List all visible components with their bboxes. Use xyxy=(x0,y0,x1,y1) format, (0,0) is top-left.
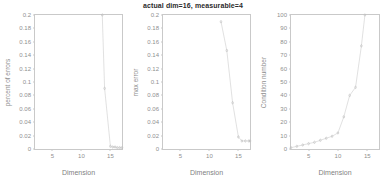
subplot-2-ytick-mark xyxy=(289,135,291,136)
subplot-1-xtick-mark xyxy=(180,149,181,151)
subplot-1-ytick-label: 0.06 xyxy=(147,106,159,112)
subplot-2-xtick-mark xyxy=(367,149,368,151)
subplot-2-xtick-label: 15 xyxy=(364,153,371,159)
subplot-2-xtick-mark xyxy=(308,149,309,151)
subplot-0-ytick-label: 0.16 xyxy=(19,39,31,45)
subplot-0-xtick-label: 15 xyxy=(107,153,114,159)
subplot-1-xtick-label: 5 xyxy=(179,153,182,159)
subplot-2-line xyxy=(291,15,365,148)
subplot-0-xtick-label: 5 xyxy=(51,153,54,159)
subplot-0-ytick-mark xyxy=(33,68,35,69)
subplot-1-title: actual dim=16, measurable=4 xyxy=(128,2,258,9)
subplot-0-xtick-mark xyxy=(81,149,82,151)
subplot-0-ytick-mark xyxy=(33,82,35,83)
subplot-1-ytick-mark xyxy=(161,108,163,109)
subplot-0-ylabel: percent of errors xyxy=(2,14,13,150)
subplot-1-xtick-mark xyxy=(238,149,239,151)
subplot-2-series-svg xyxy=(291,15,379,149)
subplot-1-ytick-label: 0.04 xyxy=(147,119,159,125)
subplot-2-ytick-mark xyxy=(289,82,291,83)
subplot-2-xtick-mark xyxy=(337,149,338,151)
subplot-0-series-svg xyxy=(35,15,122,149)
subplot-1-series-layer xyxy=(163,15,250,149)
matlab-figure: percent of errors 00.020.040.060.080.10.… xyxy=(0,0,387,190)
subplot-1-xtick-label: 15 xyxy=(235,153,242,159)
subplot-0-ytick-mark xyxy=(33,122,35,123)
subplot-1-line xyxy=(221,22,250,141)
subplot-1-ytick-label: 0.08 xyxy=(147,92,159,98)
subplot-2-ytick-mark xyxy=(289,55,291,56)
subplot-0-ytick-mark xyxy=(33,95,35,96)
subplot-0-ytick-mark xyxy=(33,108,35,109)
subplot-1-ytick-mark xyxy=(161,95,163,96)
subplot-1-ytick-mark xyxy=(161,28,163,29)
subplot-2-ytick-mark xyxy=(289,122,291,123)
subplot-1-ytick-label: 0.1 xyxy=(151,79,159,85)
subplot-2-ytick-label: 30 xyxy=(280,106,287,112)
subplot-2-ytick-label: 10 xyxy=(280,133,287,139)
subplot-0-xtick-mark xyxy=(52,149,53,151)
subplot-1-ytick-label: 0.16 xyxy=(147,39,159,45)
subplot-1-ytick-label: 0.12 xyxy=(147,66,159,72)
subplot-1-xtick-label: 10 xyxy=(206,153,213,159)
subplot-2-xtick-label: 10 xyxy=(335,153,342,159)
subplot-1-ylabel: max error xyxy=(130,14,141,150)
subplot-2-plot-area: 010203040506070809010051015 xyxy=(290,14,380,150)
subplot-2-ytick-mark xyxy=(289,28,291,29)
subplot-0-ytick-label: 0.2 xyxy=(23,12,31,18)
subplot-2-xlabel: Dimension xyxy=(290,169,380,176)
subplot-1-ytick-mark xyxy=(161,149,163,150)
subplot-0-ytick-label: 0.18 xyxy=(19,25,31,31)
subplot-condition-number: Condition number 01020304050607080901005… xyxy=(256,0,387,190)
subplot-1-ytick-mark xyxy=(161,68,163,69)
subplot-1-ytick-label: 0.14 xyxy=(147,52,159,58)
subplot-0-ytick-mark xyxy=(33,149,35,150)
subplot-2-ytick-label: 100 xyxy=(277,12,287,18)
subplot-1-plot-area: 00.020.040.060.080.10.120.140.160.180.25… xyxy=(162,14,251,150)
subplot-max-error: actual dim=16, measurable=4 max error 00… xyxy=(128,0,258,190)
subplot-0-xlabel: Dimension xyxy=(34,169,123,176)
subplot-0-xtick-label: 10 xyxy=(78,153,85,159)
subplot-0-line xyxy=(102,15,122,148)
subplot-2-ytick-label: 60 xyxy=(280,66,287,72)
subplot-0-ytick-mark xyxy=(33,28,35,29)
subplot-0-ytick-label: 0.06 xyxy=(19,106,31,112)
subplot-2-ytick-label: 50 xyxy=(280,79,287,85)
subplot-2-ytick-label: 80 xyxy=(280,39,287,45)
subplot-2-ytick-mark xyxy=(289,108,291,109)
subplot-1-ytick-mark xyxy=(161,122,163,123)
subplot-2-series-layer xyxy=(291,15,379,149)
subplot-0-xtick-mark xyxy=(110,149,111,151)
subplot-1-xtick-mark xyxy=(209,149,210,151)
subplot-0-ytick-label: 0.14 xyxy=(19,52,31,58)
subplot-1-series-svg xyxy=(163,15,250,149)
subplot-2-xtick-label: 5 xyxy=(307,153,310,159)
subplot-1-ytick-mark xyxy=(161,55,163,56)
subplot-0-ytick-mark xyxy=(33,15,35,16)
subplot-2-ytick-mark xyxy=(289,149,291,150)
subplot-1-ytick-mark xyxy=(161,82,163,83)
subplot-2-ytick-label: 0 xyxy=(284,146,287,152)
subplot-percent-of-errors: percent of errors 00.020.040.060.080.10.… xyxy=(0,0,130,190)
subplot-1-ytick-mark xyxy=(161,15,163,16)
subplot-0-plot-area: 00.020.040.060.080.10.120.140.160.180.25… xyxy=(34,14,123,150)
subplot-1-ytick-mark xyxy=(161,41,163,42)
subplot-0-ytick-mark xyxy=(33,41,35,42)
subplot-2-ytick-label: 90 xyxy=(280,25,287,31)
subplot-0-ytick-mark xyxy=(33,55,35,56)
subplot-2-ylabel: Condition number xyxy=(258,14,269,150)
subplot-0-ytick-label: 0 xyxy=(28,146,31,152)
subplot-2-ytick-mark xyxy=(289,68,291,69)
subplot-1-ytick-label: 0.2 xyxy=(151,12,159,18)
subplot-1-ytick-label: 0 xyxy=(156,146,159,152)
subplot-0-ytick-label: 0.02 xyxy=(19,133,31,139)
subplot-0-ytick-label: 0.08 xyxy=(19,92,31,98)
subplot-2-ytick-mark xyxy=(289,41,291,42)
subplot-1-ytick-label: 0.18 xyxy=(147,25,159,31)
subplot-0-ytick-label: 0.1 xyxy=(23,79,31,85)
subplot-1-ytick-label: 0.02 xyxy=(147,133,159,139)
subplot-2-ytick-label: 70 xyxy=(280,52,287,58)
subplot-1-ytick-mark xyxy=(161,135,163,136)
subplot-0-ytick-mark xyxy=(33,135,35,136)
subplot-0-ytick-label: 0.04 xyxy=(19,119,31,125)
